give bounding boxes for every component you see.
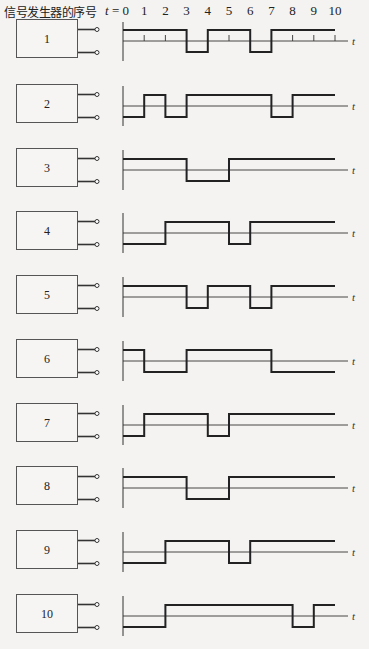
- terminal-icon: [95, 475, 99, 479]
- terminal-icon: [95, 157, 99, 161]
- t-axis-label: t: [352, 227, 356, 239]
- tick-label: 1: [141, 3, 148, 19]
- terminal-icon: [95, 243, 99, 247]
- terminal-icon: [95, 28, 99, 32]
- terminal-icon: [95, 603, 99, 607]
- terminal-icon: [95, 220, 99, 224]
- tick-label: 5: [226, 3, 233, 19]
- terminal-icon: [95, 626, 99, 630]
- time-axis-labels: t = 012345678910: [0, 0, 369, 20]
- t-axis-label: t: [352, 35, 356, 47]
- signal-waveform: t: [0, 339, 369, 399]
- terminal-icon: [95, 284, 99, 288]
- generator-row: 4t: [0, 211, 369, 271]
- terminal-icon: [95, 93, 99, 97]
- t-axis-label: t: [352, 164, 356, 176]
- generator-row: 5t: [0, 275, 369, 335]
- terminal-icon: [95, 180, 99, 184]
- generator-row: 10t: [0, 594, 369, 649]
- tick-label: 6: [247, 3, 254, 19]
- terminal-icon: [95, 539, 99, 543]
- t-axis-label: t: [352, 610, 356, 622]
- generator-row: 2t: [0, 84, 369, 144]
- t-axis-label: t: [352, 482, 356, 494]
- signal-waveform: t: [0, 19, 369, 79]
- signal-waveform: t: [0, 84, 369, 144]
- terminal-icon: [95, 412, 99, 416]
- t-axis-label: t: [352, 546, 356, 558]
- generator-row: 8t: [0, 466, 369, 526]
- signal-waveform: t: [0, 403, 369, 463]
- signal-waveform: t: [0, 466, 369, 526]
- generator-row: 7t: [0, 403, 369, 463]
- terminal-icon: [95, 371, 99, 375]
- signal-waveform: t: [0, 594, 369, 649]
- generator-row: 1t: [0, 19, 369, 79]
- tick-label: 2: [162, 3, 169, 19]
- t-axis-label: t: [352, 291, 356, 303]
- tick-label: 4: [205, 3, 212, 19]
- signal-waveform: t: [0, 530, 369, 590]
- signal-waveform: t: [0, 148, 369, 208]
- tick-label: 8: [289, 3, 296, 19]
- tick-label: 9: [311, 3, 318, 19]
- terminal-icon: [95, 307, 99, 311]
- signal-waveform: t: [0, 211, 369, 271]
- tick-label: 7: [268, 3, 275, 19]
- generator-row: 9t: [0, 530, 369, 590]
- tick-label-t0: t = 0: [105, 3, 129, 19]
- terminal-icon: [95, 498, 99, 502]
- generator-row: 6t: [0, 339, 369, 399]
- tick-label: 3: [183, 3, 190, 19]
- terminal-icon: [95, 435, 99, 439]
- t-axis-label: t: [352, 100, 356, 112]
- terminal-icon: [95, 116, 99, 120]
- tick-label: 10: [329, 3, 342, 19]
- t-axis-label: t: [352, 419, 356, 431]
- generator-row: 3t: [0, 148, 369, 208]
- signal-waveform: t: [0, 275, 369, 335]
- t-axis-label: t: [352, 355, 356, 367]
- terminal-icon: [95, 562, 99, 566]
- terminal-icon: [95, 348, 99, 352]
- terminal-icon: [95, 51, 99, 55]
